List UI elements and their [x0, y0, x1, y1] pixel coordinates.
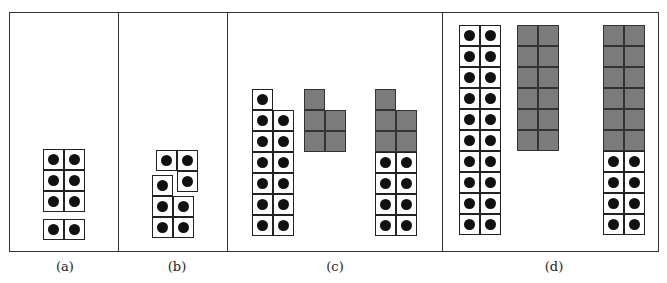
- dot-tile: [252, 194, 273, 215]
- gray-tile: [517, 88, 538, 109]
- dot-tile: [459, 193, 480, 214]
- dot-tile: [459, 46, 480, 67]
- gray-tile: [517, 46, 538, 67]
- gray-tile: [517, 25, 538, 46]
- gray-tile: [325, 110, 346, 131]
- dot-tile: [273, 194, 294, 215]
- dot-tile: [252, 215, 273, 236]
- dot-tile: [375, 194, 396, 215]
- dot-tile: [603, 214, 624, 235]
- dot-tile: [624, 193, 645, 214]
- dot-tile: [480, 151, 501, 172]
- dot-tile: [459, 130, 480, 151]
- dot-tile: [396, 152, 417, 173]
- dot-tile: [480, 172, 501, 193]
- panel-label-a: (a): [56, 259, 74, 274]
- dot-tile: [273, 110, 294, 131]
- dot-tile: [480, 88, 501, 109]
- gray-tile: [624, 88, 645, 109]
- dot-tile: [375, 173, 396, 194]
- dot-tile: [252, 110, 273, 131]
- dot-tile: [480, 109, 501, 130]
- gray-tile: [538, 46, 559, 67]
- gray-tile: [517, 130, 538, 151]
- dot-tile: [396, 173, 417, 194]
- gray-tile: [396, 131, 417, 152]
- panel-divider: [442, 12, 443, 252]
- dot-tile: [252, 152, 273, 173]
- gray-tile: [538, 25, 559, 46]
- dot-tile: [252, 89, 273, 110]
- dot-tile: [273, 173, 294, 194]
- dot-tile: [624, 151, 645, 172]
- gray-tile: [517, 67, 538, 88]
- dot-tile: [480, 67, 501, 88]
- dot-tile: [173, 217, 194, 238]
- dot-tile: [273, 131, 294, 152]
- panel-divider: [227, 12, 228, 252]
- gray-tile: [304, 89, 325, 110]
- dot-tile: [375, 215, 396, 236]
- dot-tile: [177, 150, 198, 171]
- dot-tile: [273, 152, 294, 173]
- gray-tile: [624, 46, 645, 67]
- dot-tile: [43, 170, 64, 191]
- dot-tile: [624, 172, 645, 193]
- dot-tile: [459, 109, 480, 130]
- panel-label-b: (b): [168, 259, 186, 274]
- panel-divider: [118, 12, 119, 252]
- dot-tile: [252, 173, 273, 194]
- dot-tile: [152, 196, 173, 217]
- dot-tile: [480, 130, 501, 151]
- dot-tile: [43, 149, 64, 170]
- gray-tile: [517, 109, 538, 130]
- gray-tile: [396, 110, 417, 131]
- gray-tile: [624, 67, 645, 88]
- panel-label-d: (d): [545, 259, 563, 274]
- panel-label-c: (c): [326, 259, 343, 274]
- dot-tile: [177, 171, 198, 192]
- dot-tile: [603, 151, 624, 172]
- dot-tile: [43, 219, 64, 240]
- dot-tile: [375, 152, 396, 173]
- gray-tile: [603, 25, 624, 46]
- dot-tile: [480, 193, 501, 214]
- dot-tile: [480, 214, 501, 235]
- gray-tile: [304, 110, 325, 131]
- gray-tile: [538, 88, 559, 109]
- dot-tile: [480, 25, 501, 46]
- dot-tile: [396, 215, 417, 236]
- gray-tile: [375, 110, 396, 131]
- dot-tile: [459, 25, 480, 46]
- dot-tile: [603, 193, 624, 214]
- dot-tile: [64, 149, 85, 170]
- dot-tile: [396, 194, 417, 215]
- dot-tile: [64, 170, 85, 191]
- dot-tile: [156, 150, 177, 171]
- dot-tile: [152, 175, 173, 196]
- dot-tile: [173, 196, 194, 217]
- gray-tile: [304, 131, 325, 152]
- dot-tile: [480, 46, 501, 67]
- gray-tile: [624, 25, 645, 46]
- gray-tile: [603, 109, 624, 130]
- gray-tile: [538, 67, 559, 88]
- dot-tile: [624, 214, 645, 235]
- gray-tile: [624, 130, 645, 151]
- dot-tile: [43, 191, 64, 212]
- dot-tile: [459, 67, 480, 88]
- dot-tile: [459, 151, 480, 172]
- gray-tile: [375, 131, 396, 152]
- gray-tile: [375, 89, 396, 110]
- dot-tile: [459, 88, 480, 109]
- gray-tile: [624, 109, 645, 130]
- gray-tile: [538, 109, 559, 130]
- gray-tile: [603, 88, 624, 109]
- dot-tile: [603, 172, 624, 193]
- gray-tile: [603, 130, 624, 151]
- dot-tile: [152, 217, 173, 238]
- gray-tile: [325, 131, 346, 152]
- dot-tile: [273, 215, 294, 236]
- dot-tile: [252, 131, 273, 152]
- dot-tile: [64, 219, 85, 240]
